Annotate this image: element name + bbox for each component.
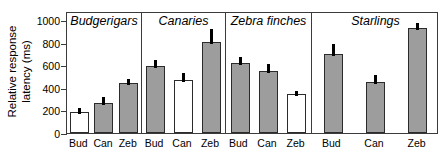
error-bar — [78, 108, 81, 114]
y-axis-tick-label: 1000 — [28, 16, 60, 27]
bar-group — [226, 13, 311, 133]
bar-chart-figure: Relative response latency (ms) 020040060… — [0, 0, 440, 158]
x-axis-tick-label: Zeb — [282, 137, 310, 149]
bar-slot-zeb — [202, 13, 221, 133]
x-axis-tick-label: Can — [360, 137, 388, 149]
bar-slot-zeb — [287, 13, 306, 133]
x-axis-tick-label: Zeb — [115, 137, 140, 149]
bar — [324, 54, 343, 133]
x-label-group: BudCanZeb — [224, 137, 310, 153]
x-axis-tick-label: Zeb — [403, 137, 431, 149]
panel-starlings: Starlings — [311, 13, 439, 133]
bar — [287, 94, 306, 133]
bar-slot-bud — [231, 13, 250, 133]
bar — [366, 82, 385, 133]
y-axis-tick-label: 0 — [28, 129, 60, 140]
y-axis-tick — [61, 134, 67, 135]
bar-group — [312, 13, 439, 133]
error-bar — [295, 91, 298, 96]
bar — [259, 71, 278, 133]
panel-canaries: Canaries — [141, 13, 225, 133]
panel-zebra-finches: Zebra finches — [225, 13, 311, 133]
x-axis-tick-label: Can — [253, 137, 281, 149]
x-label-group: BudCanZeb — [140, 137, 224, 153]
bar-slot-zeb — [119, 13, 138, 133]
x-axis-tick-labels: BudCanZebBudCanZebBudCanZebBudCanZeb — [66, 137, 438, 153]
plot-area: BudgerigarsCanariesZebra finchesStarling… — [66, 12, 438, 134]
x-axis-tick-label: Zeb — [196, 137, 224, 149]
error-bar — [416, 23, 419, 30]
y-axis-tick-label: 800 — [28, 39, 60, 50]
bar-slot-bud — [324, 13, 343, 133]
y-axis-tick-label: 600 — [28, 61, 60, 72]
error-bar — [127, 79, 130, 86]
panel-budgerigars: Budgerigars — [67, 13, 141, 133]
bar-slot-bud — [146, 13, 165, 133]
y-axis-tick-label: 200 — [28, 106, 60, 117]
bar-slot-can — [366, 13, 385, 133]
y-axis-tick-labels: 02004006008001000 — [28, 0, 60, 158]
bar-slot-bud — [70, 13, 89, 133]
bar — [231, 63, 250, 133]
x-axis-tick-label: Bud — [224, 137, 252, 149]
bar — [70, 112, 89, 133]
bar — [119, 83, 138, 133]
bar — [94, 103, 113, 134]
x-axis-tick-label: Bud — [140, 137, 168, 149]
error-bar — [239, 57, 242, 65]
bar-slot-can — [174, 13, 193, 133]
error-bar — [210, 29, 213, 44]
bar-slot-can — [94, 13, 113, 133]
bar — [146, 66, 165, 133]
x-label-group: BudCanZeb — [66, 137, 140, 153]
y-axis-tick-label: 400 — [28, 84, 60, 95]
error-bar — [267, 64, 270, 73]
x-axis-tick-label: Bud — [66, 137, 91, 149]
x-axis-tick-label: Bud — [317, 137, 345, 149]
error-bar — [154, 60, 157, 68]
x-axis-tick-label: Can — [91, 137, 116, 149]
bar-slot-can — [259, 13, 278, 133]
bar — [202, 42, 221, 133]
x-label-group: BudCanZeb — [310, 137, 438, 153]
error-bar — [102, 97, 105, 104]
x-axis-tick-label: Can — [168, 137, 196, 149]
bar-slot-zeb — [408, 13, 427, 133]
error-bar — [332, 44, 335, 56]
bar-group — [142, 13, 225, 133]
error-bar — [182, 73, 185, 83]
bar — [174, 80, 193, 133]
bar — [408, 28, 427, 133]
error-bar — [374, 75, 377, 84]
bar-group — [67, 13, 141, 133]
